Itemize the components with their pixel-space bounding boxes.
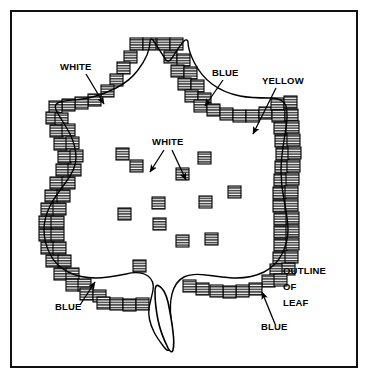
border-block bbox=[58, 151, 71, 163]
border-block bbox=[58, 255, 71, 267]
label-white-top-left: WHITE bbox=[60, 61, 92, 72]
border-block bbox=[286, 121, 299, 133]
border-block bbox=[196, 283, 209, 295]
interior-block bbox=[130, 160, 143, 172]
border-block bbox=[53, 203, 66, 215]
border-block bbox=[110, 74, 123, 86]
border-block bbox=[66, 279, 79, 291]
interior-block bbox=[153, 218, 166, 230]
border-block bbox=[53, 242, 66, 254]
border-block bbox=[184, 67, 197, 79]
border-block bbox=[220, 108, 233, 120]
border-block bbox=[136, 298, 149, 310]
border-block bbox=[285, 199, 298, 211]
diagram-canvas: WHITEBLUEYELLOWWHITEBLUEOUTLINEOFLEAFBLU… bbox=[0, 0, 371, 380]
border-block bbox=[177, 54, 190, 66]
label-white-center: WHITE bbox=[152, 136, 184, 147]
border-block bbox=[287, 134, 300, 146]
border-block bbox=[171, 65, 184, 77]
label-outline: OUTLINE bbox=[283, 265, 326, 276]
border-block bbox=[275, 135, 288, 147]
interior-block bbox=[198, 152, 211, 164]
label-yellow-top: YELLOW bbox=[262, 75, 304, 86]
interior-block bbox=[199, 196, 212, 208]
border-block bbox=[287, 160, 300, 172]
border-block bbox=[178, 78, 191, 90]
label-leaf: LEAF bbox=[283, 297, 309, 308]
interior-block bbox=[228, 186, 241, 198]
border-block bbox=[124, 51, 137, 63]
border-block bbox=[288, 147, 301, 159]
interior-block bbox=[176, 235, 189, 247]
border-block bbox=[51, 229, 64, 241]
border-block bbox=[50, 125, 63, 137]
leaf-diagram-svg: WHITEBLUEYELLOWWHITEBLUEOUTLINEOFLEAFBLU… bbox=[0, 0, 371, 380]
border-block bbox=[56, 164, 69, 176]
interior-block bbox=[133, 260, 146, 272]
border-block bbox=[123, 299, 136, 311]
border-block bbox=[207, 104, 220, 116]
interior-block bbox=[118, 208, 131, 220]
label-blue-top-right: BLUE bbox=[212, 67, 239, 78]
border-block bbox=[50, 177, 63, 189]
border-block bbox=[249, 283, 262, 295]
border-block bbox=[272, 110, 285, 122]
border-block bbox=[286, 173, 299, 185]
label-blue-bottom-left: BLUE bbox=[55, 301, 82, 312]
white-center-arrow-left bbox=[150, 150, 164, 172]
interior-block bbox=[205, 233, 218, 245]
leaf-stem-path bbox=[155, 285, 174, 351]
blue-bottom-right-arrow bbox=[262, 292, 275, 324]
border-block bbox=[285, 186, 298, 198]
label-of: OF bbox=[283, 281, 297, 292]
border-block bbox=[183, 280, 196, 292]
border-block bbox=[286, 238, 299, 250]
border-block bbox=[262, 275, 275, 287]
interior-block-group bbox=[116, 148, 241, 272]
border-block bbox=[110, 298, 123, 310]
border-block bbox=[233, 110, 246, 122]
border-block bbox=[130, 38, 143, 50]
border-block bbox=[54, 138, 67, 150]
label-blue-bottom-right: BLUE bbox=[261, 321, 288, 332]
border-block bbox=[274, 213, 287, 225]
border-block bbox=[223, 286, 236, 298]
interior-block bbox=[152, 197, 165, 209]
border-block bbox=[271, 98, 284, 110]
border-block bbox=[210, 285, 223, 297]
interior-block bbox=[116, 148, 129, 160]
border-block bbox=[46, 255, 59, 267]
border-block bbox=[97, 297, 110, 309]
border-block bbox=[285, 251, 298, 263]
border-block bbox=[51, 216, 64, 228]
border-block bbox=[246, 110, 259, 122]
border-block bbox=[101, 85, 114, 97]
border-block bbox=[274, 226, 287, 238]
border-block bbox=[236, 285, 249, 297]
border-block bbox=[117, 62, 130, 74]
